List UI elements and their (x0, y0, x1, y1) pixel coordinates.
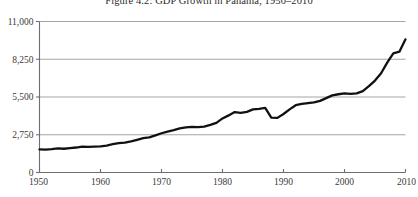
x-tick-labels: 1950196019701980199020002010 (29, 177, 416, 187)
y-tick-label: 8,250 (12, 55, 34, 65)
y-tick-label: 5,500 (12, 92, 34, 102)
series-line-gdp (40, 39, 406, 149)
gdp-growth-line-chart: 02,7505,5008,25011,000 19501960197019801… (0, 0, 418, 197)
x-tick-label: 1970 (152, 177, 171, 187)
x-axis (40, 169, 406, 173)
figure-container: Figure 4.2: GDP Growth in Panama, 1950–2… (0, 0, 418, 197)
x-tick-label: 1950 (29, 177, 48, 187)
x-tick-label: 2000 (335, 177, 354, 187)
y-tick-label: 2,750 (12, 130, 34, 140)
x-tick-label: 1990 (274, 177, 293, 187)
y-tick-labels: 02,7505,5008,25011,000 (8, 17, 34, 178)
x-tick-label: 1980 (213, 177, 232, 187)
x-tick-label: 1960 (91, 177, 110, 187)
x-tick-label: 2010 (397, 177, 416, 187)
y-tick-label: 11,000 (8, 17, 34, 27)
data-series-line (40, 39, 406, 149)
